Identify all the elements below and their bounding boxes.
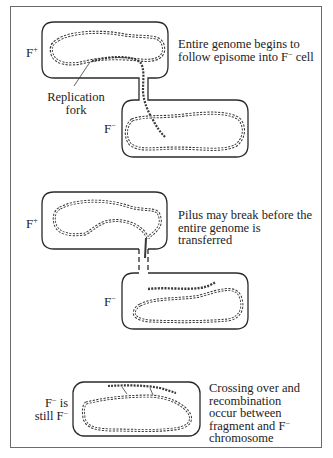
donor-fragment	[108, 385, 176, 393]
crossover-mark-1	[122, 387, 127, 394]
strand-in-pilus	[145, 238, 146, 258]
caption-line: follow episome into F− cell	[178, 51, 314, 64]
panel-3-caption: Crossing over and recombination occur be…	[209, 382, 300, 445]
panel-2-caption: Pilus may break before the entire genome…	[178, 209, 312, 247]
panel-3	[73, 382, 200, 436]
recipient-chromosome-2	[134, 289, 242, 321]
recipient-label-fminus-2: F−	[104, 295, 116, 308]
donor-label-fplus: F+	[26, 46, 38, 59]
still-fminus-label: F− is still F−	[22, 397, 68, 422]
transferred-fragment	[148, 282, 216, 289]
recipient-label-fminus: F−	[104, 122, 116, 135]
donor-label-fplus-2: F+	[26, 217, 38, 230]
crossover-mark-2	[150, 388, 153, 395]
donor-chromosome-inner	[51, 32, 163, 64]
recipient-chromosome-2-inner	[134, 289, 242, 321]
panel-1-caption: Entire genome begins to follow episome i…	[178, 38, 314, 63]
recipient-chromosome-3-inner	[83, 396, 190, 431]
replication-fork-pointer	[74, 62, 90, 86]
donor-chromosome-2-inner	[54, 201, 160, 238]
recipient-chromosome	[126, 113, 243, 149]
replication-fork-label: Replication fork	[36, 91, 116, 116]
